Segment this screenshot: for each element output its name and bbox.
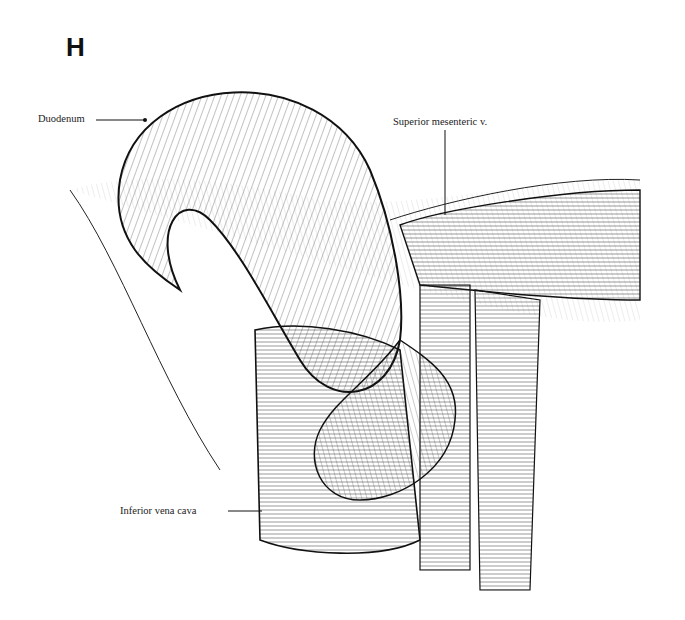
label-superior-mesenteric-vein: Superior mesenteric v. xyxy=(393,116,487,127)
anatomical-illustration xyxy=(0,0,685,620)
label-inferior-vena-cava: Inferior vena cava xyxy=(120,505,196,516)
panel-letter: H xyxy=(66,32,85,63)
label-duodenum: Duodenum xyxy=(38,113,85,124)
